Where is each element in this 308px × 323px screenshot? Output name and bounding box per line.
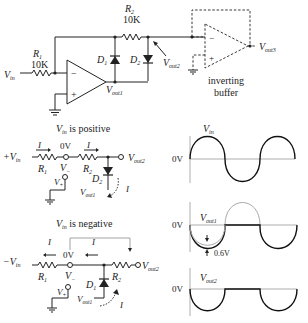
positive-case-circuit: Vin is positive +Vin I I 0V Vout2 R1 V− … — [3, 123, 145, 204]
current-label: I — [91, 237, 96, 247]
zero-label: 0V — [172, 154, 184, 164]
r1-label: R1 — [37, 163, 47, 175]
input-label: −Vin — [3, 256, 21, 268]
waveform-vin: 0V Vin — [172, 123, 295, 183]
buffer-minus: − — [209, 33, 214, 43]
d1-label: D1 — [85, 279, 96, 291]
vout1-label: Vout1 — [106, 84, 123, 96]
r2-value: 10K — [123, 14, 141, 25]
drop-label: 0.6V — [214, 249, 230, 258]
vminus-terminal — [68, 263, 73, 268]
negative-case-circuit: Vin is negative −Vin I I 0V Vout2 R1 V− … — [3, 218, 159, 312]
r1-resistor — [20, 70, 55, 76]
waveform-vout2: 0V Vout2 — [172, 268, 297, 316]
arrow-head-icon — [113, 289, 119, 295]
r2-label: R2 — [111, 271, 121, 283]
positive-case-title: Vin is positive — [56, 123, 111, 135]
vminus-label: V− — [60, 162, 70, 174]
buffer-label-line1: inverting — [208, 75, 244, 86]
input-label: +Vin — [3, 151, 21, 163]
loop-indicator — [70, 238, 130, 250]
vout2-label: Vout2 — [128, 152, 145, 164]
current-label: I — [47, 237, 52, 247]
r2-label: R2 — [82, 163, 92, 175]
feedback-wire — [55, 37, 115, 73]
current-label: I — [37, 140, 42, 150]
main-circuit: Vin R1 10K R2 10K D1 D2 − + — [4, 3, 276, 115]
node-voltage: 0V — [60, 141, 72, 151]
vout1-label: Vout1 — [77, 294, 93, 305]
r2-resistor — [69, 154, 118, 160]
vplus-label: V+ — [54, 177, 64, 188]
arrow-head-icon — [96, 148, 99, 152]
vout3-label: Vout3 — [259, 41, 276, 53]
r2-resistor — [115, 34, 148, 40]
arrow-head-icon — [85, 253, 88, 257]
arrow-head-icon — [205, 249, 209, 253]
buffer-label-line2: buffer — [214, 87, 239, 98]
vout2-pointer — [155, 43, 166, 56]
current-label: I — [125, 184, 130, 194]
node-voltage: 0V — [63, 250, 75, 260]
buffer-plus: + — [209, 53, 214, 63]
vout2-label: Vout2 — [200, 272, 217, 284]
vout2-label: Vout2 — [142, 260, 159, 272]
arrow-head-icon — [43, 253, 46, 257]
ground-wire — [55, 94, 67, 110]
d2-label: D2 — [129, 54, 140, 66]
r1-resistor — [32, 154, 63, 160]
r1-value: 10K — [31, 59, 49, 70]
zero-label: 0V — [172, 284, 184, 294]
current-path-arrow — [110, 178, 118, 196]
arrow-head-icon — [128, 248, 132, 252]
vout2-terminal — [136, 263, 141, 268]
vout2-wave — [190, 289, 297, 311]
vplus-terminal — [63, 175, 68, 180]
ground-icon — [47, 308, 57, 312]
precision-rectifier-diagram: Vin R1 10K R2 10K D1 D2 − + — [0, 0, 308, 323]
vout1-label: Vout1 — [200, 212, 217, 224]
vout2-label: Vout2 — [163, 57, 180, 69]
vin-label: Vin — [203, 123, 214, 135]
vplus-label: V+ — [57, 287, 67, 298]
vout2-terminal — [119, 155, 124, 160]
d1-diode — [99, 279, 109, 287]
d1-label: D1 — [96, 54, 107, 66]
junction-dot — [113, 80, 116, 83]
buffer-feedback-wire — [192, 10, 250, 46]
arrow-head-icon — [205, 238, 209, 242]
ground-icon — [49, 110, 61, 115]
buffer-ground-wire — [193, 55, 205, 70]
inverting-buffer: − + Vout3 inverting buffer — [188, 10, 276, 98]
d2-diode — [143, 55, 153, 63]
d1-diode — [110, 56, 120, 64]
current-label: I — [119, 300, 124, 310]
vminus-terminal — [64, 155, 69, 160]
current-label: I — [86, 140, 91, 150]
arrow-head-icon — [48, 148, 51, 152]
arrow-head-icon — [107, 193, 112, 198]
vin-label: Vin — [4, 69, 15, 81]
ground-icon — [188, 70, 198, 74]
opamp-plus: + — [71, 89, 77, 100]
vin-reference — [225, 203, 260, 226]
vminus-label: V− — [65, 270, 75, 282]
negative-case-title: Vin is negative — [56, 218, 113, 230]
waveform-vout1: 0V Vout1 0.6V — [172, 202, 297, 258]
d2-diode — [103, 167, 113, 175]
r1-label: R1 — [37, 271, 47, 283]
zero-label: 0V — [172, 220, 184, 230]
vplus-terminal — [66, 285, 71, 290]
d2-label: D2 — [91, 173, 102, 185]
opamp-minus: − — [71, 68, 77, 79]
ground-icon — [45, 200, 55, 204]
vout1-label: Vout1 — [80, 187, 96, 198]
r1-resistor — [32, 262, 67, 268]
current-path-arrow — [100, 292, 116, 306]
